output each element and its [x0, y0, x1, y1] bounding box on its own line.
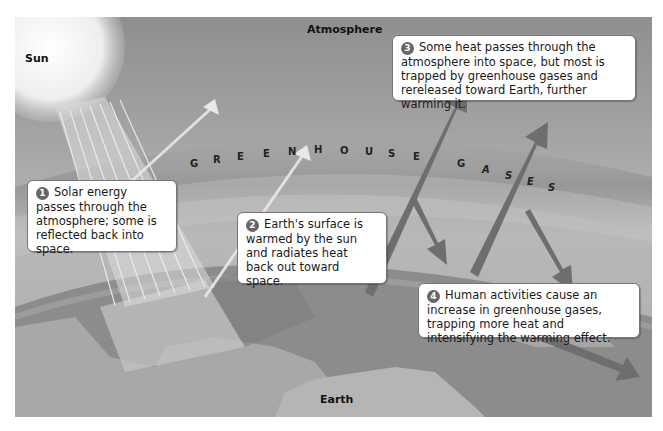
callout-step-2: 2Earth's surface is warmed by the sun an… [237, 212, 387, 284]
callout-text: Earth's surface is warmed by the sun and… [246, 217, 363, 288]
letter: S [505, 170, 512, 181]
step-number-badge: 2 [246, 219, 259, 232]
earth-label: Earth [320, 393, 353, 406]
letter: R [213, 154, 221, 165]
callout-text: Some heat passes through the atmosphere … [401, 40, 605, 111]
callout-step-4: 4Human activities cause an increase in g… [418, 283, 640, 338]
sun-label: Sun [25, 52, 49, 65]
letter: E [527, 176, 534, 187]
letter: A [482, 164, 490, 175]
callout-step-3: 3Some heat passes through the atmosphere… [392, 35, 636, 101]
step-number-badge: 1 [36, 187, 49, 200]
letter: U [365, 146, 373, 157]
letter: O [340, 145, 349, 156]
atmosphere-label: Atmosphere [307, 23, 382, 36]
callout-text: Human activities cause an increase in gr… [427, 288, 610, 345]
letter: N [288, 146, 296, 157]
step-number-badge: 3 [401, 42, 414, 55]
callout-text: Solar energy passes through the atmosphe… [36, 185, 157, 256]
letter: S [548, 182, 555, 193]
letter: G [190, 158, 198, 169]
letter: E [413, 151, 420, 162]
letter: H [314, 144, 322, 155]
letter: S [388, 148, 395, 159]
letter: E [263, 148, 270, 159]
callout-step-1: 1Solar energy passes through the atmosph… [27, 180, 177, 252]
letter: E [237, 151, 244, 162]
greenhouse-effect-diagram: Sun Atmosphere Earth G R E E N H O U S E… [15, 17, 652, 417]
step-number-badge: 4 [427, 290, 440, 303]
letter: G [457, 158, 465, 169]
